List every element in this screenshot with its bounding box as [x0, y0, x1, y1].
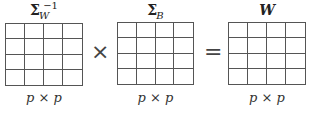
- equals-operator: =: [204, 39, 222, 64]
- matrix-label-sigma-b: ΣB: [117, 2, 194, 20]
- matrix-label-w: W: [228, 2, 306, 18]
- matrix-label-sigma-w-inverse: ΣW−1: [5, 2, 83, 20]
- matrix-grid-w: [228, 22, 306, 85]
- matrix-grid-sigma-w-inverse: [5, 23, 83, 86]
- matrix-dimension-label: p × p: [228, 90, 306, 105]
- matrix-subscript: W: [39, 10, 49, 21]
- matrix-symbol: W: [259, 2, 275, 18]
- matrix-subscript: B: [156, 10, 163, 21]
- matrix-dimension-label: p × p: [5, 90, 83, 105]
- matrix-dimension-label: p × p: [117, 90, 194, 105]
- matrix-superscript: −1: [43, 0, 58, 11]
- multiply-operator: ×: [91, 39, 109, 64]
- matrix-grid-sigma-b: [117, 22, 194, 85]
